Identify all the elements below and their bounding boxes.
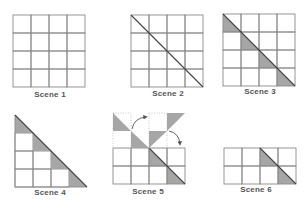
grid-cell	[242, 166, 260, 184]
grid-cell	[67, 15, 85, 33]
grid-cell	[242, 148, 260, 166]
grid-cell	[167, 148, 185, 166]
scene-1-grid	[13, 15, 85, 87]
grid-cell	[260, 166, 278, 184]
grid-cell	[278, 148, 296, 166]
grid-cell	[277, 14, 295, 32]
scene-4-staircase-triangle	[15, 115, 87, 187]
grid-cell	[49, 69, 67, 87]
grid-cell	[131, 33, 149, 51]
grid-cell	[49, 33, 67, 51]
grid-cell	[277, 32, 295, 50]
scenes-diagram: Scene 1 Scene 2 Scene 3 Scene 4 Scene 5 …	[0, 0, 306, 211]
grid-cell	[224, 166, 242, 184]
scene-5-label: Scene 5	[132, 187, 164, 196]
grid-cell	[31, 69, 49, 87]
scene-1-label: Scene 1	[34, 90, 66, 99]
grid-cell	[33, 151, 51, 169]
scene-5-rearranging-pieces	[113, 113, 185, 184]
moving-triangle	[167, 113, 185, 131]
grid-cell	[241, 14, 259, 32]
grid-cell	[131, 148, 149, 166]
grid-cell	[15, 169, 33, 187]
grid-cell	[31, 15, 49, 33]
grid-cell	[13, 51, 31, 69]
grid-cell	[185, 33, 203, 51]
grid-cell	[223, 68, 241, 86]
grid-cell	[277, 50, 295, 68]
grid-cell	[185, 15, 203, 33]
grid-cell	[149, 51, 167, 69]
grid-cell	[13, 69, 31, 87]
grid-cell	[241, 50, 259, 68]
grid-cell	[167, 69, 185, 87]
grid-cell	[67, 69, 85, 87]
grid-cell	[149, 15, 167, 33]
moving-triangle	[113, 113, 131, 131]
grid-cell	[13, 15, 31, 33]
grid-cell	[259, 68, 277, 86]
grid-cell	[131, 69, 149, 87]
grid-cell	[67, 51, 85, 69]
grid-cell	[149, 69, 167, 87]
grid-cell	[67, 33, 85, 51]
diagram-canvas	[0, 0, 306, 211]
grid-cell	[13, 33, 31, 51]
grid-cell	[49, 51, 67, 69]
grid-cell	[149, 166, 167, 184]
grid-cell	[131, 51, 149, 69]
grid-cell	[15, 133, 33, 151]
grid-cell	[167, 33, 185, 51]
scene-3-label: Scene 3	[244, 87, 276, 96]
grid-cell	[49, 15, 67, 33]
grid-cell	[31, 51, 49, 69]
curved-arrow-icon	[132, 117, 146, 129]
grid-cell	[113, 166, 131, 184]
grid-cell	[31, 33, 49, 51]
scene-2-label: Scene 2	[152, 89, 184, 98]
scene-2-grid-with-diagonal	[131, 15, 203, 87]
grid-cell	[223, 50, 241, 68]
scene-4-label: Scene 4	[34, 188, 66, 197]
curved-arrow-icon	[169, 131, 180, 144]
grid-cell	[131, 166, 149, 184]
grid-cell	[185, 51, 203, 69]
grid-cell	[241, 68, 259, 86]
grid-cell	[33, 169, 51, 187]
scene-6-rectangle-result	[224, 148, 296, 184]
scene-3-shaded-diagonal-grid	[223, 14, 295, 86]
grid-cell	[224, 148, 242, 166]
grid-cell	[259, 32, 277, 50]
grid-cell	[259, 14, 277, 32]
grid-cell	[51, 169, 69, 187]
scene-6-label: Scene 6	[240, 185, 272, 194]
grid-cell	[15, 151, 33, 169]
moving-triangle	[131, 131, 149, 148]
grid-cell	[223, 32, 241, 50]
grid-cell	[167, 15, 185, 33]
grid-cell	[113, 148, 131, 166]
moving-triangle	[149, 131, 167, 148]
